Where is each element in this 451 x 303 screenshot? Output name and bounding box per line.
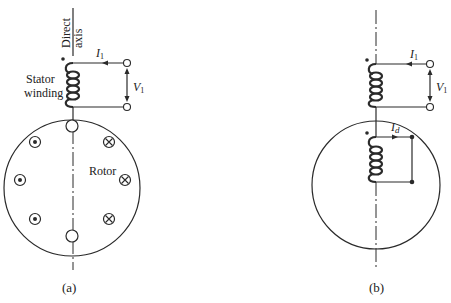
conductor-dot-icon	[30, 137, 41, 148]
voltage-label-b: V1	[436, 80, 447, 95]
terminal-bottom	[124, 104, 131, 111]
rotor-node-top	[410, 135, 415, 140]
diagram-canvas: Direct axis I1 V1 Stator winding	[0, 0, 451, 303]
polarity-dot	[61, 57, 65, 61]
current-label-b: I1	[409, 47, 418, 62]
rotor-current-arrow-icon	[392, 135, 398, 140]
polarity-dot-stator-b	[365, 58, 369, 62]
terminal-bottom-b	[427, 104, 434, 111]
stator-winding-label-line1: Stator	[26, 72, 55, 86]
terminal-top-b	[427, 61, 434, 68]
stator-winding-coil	[66, 63, 79, 107]
current-arrow-icon	[102, 61, 108, 66]
voltage-arrow-up-icon-b	[428, 69, 433, 75]
stator-winding-label-line2: winding	[24, 86, 63, 100]
voltage-arrow-down-icon	[125, 96, 130, 102]
direct-axis-label-line2: axis	[71, 28, 85, 48]
conductor-cross-icon	[104, 214, 115, 225]
current-arrow-icon-b	[406, 62, 412, 67]
panel-a: Direct axis I1 V1 Stator winding	[4, 8, 144, 295]
terminal-top	[124, 60, 131, 67]
voltage-label: V1	[133, 80, 144, 95]
conductor-cross-icon	[104, 137, 115, 148]
rotor-slot-bottom	[66, 230, 78, 242]
current-label: I1	[95, 46, 104, 61]
rotor-slot-top	[66, 120, 78, 132]
rotor-winding-coil	[369, 137, 382, 182]
conductor-dot-icon	[30, 214, 41, 225]
caption-b: (b)	[369, 280, 384, 295]
rotor-current-label: Id	[390, 120, 400, 135]
caption-a: (a)	[62, 280, 76, 295]
conductor-cross-icon	[120, 175, 131, 186]
stator-winding-coil-b	[369, 64, 382, 107]
voltage-arrow-down-icon-b	[428, 96, 433, 102]
panel-b: I1 V1 Id (b)	[312, 10, 447, 295]
rotor-label: Rotor	[89, 164, 116, 178]
rotor-node-bottom	[410, 180, 415, 185]
polarity-dot-rotor-b	[365, 131, 369, 135]
conductor-dot-icon	[15, 175, 26, 186]
voltage-arrow-up-icon	[125, 68, 130, 74]
